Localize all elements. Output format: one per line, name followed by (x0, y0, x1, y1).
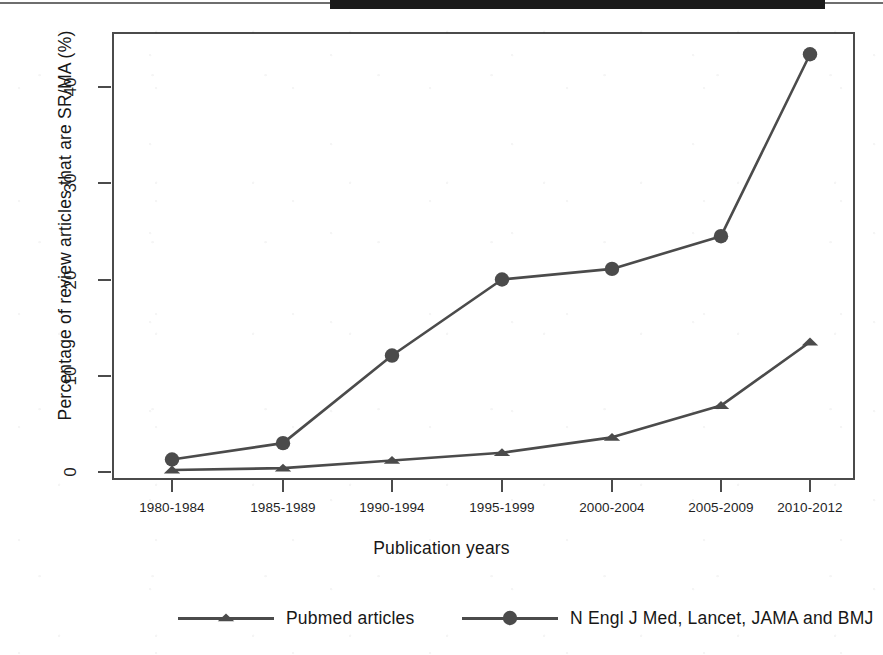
y-tick-mark (98, 279, 111, 281)
circle-marker (500, 608, 520, 628)
legend-sample (462, 608, 558, 628)
legend-sample (178, 608, 274, 628)
plot-area (112, 32, 855, 480)
legend-entry: N Engl J Med, Lancet, JAMA and BMJ (462, 604, 873, 632)
chart-legend: Pubmed articlesN Engl J Med, Lancet, JAM… (0, 600, 883, 640)
legend-label: Pubmed articles (286, 608, 414, 629)
y-tick-label: 10 (52, 367, 90, 385)
y-tick-label: 30 (52, 174, 90, 192)
x-tick-mark (501, 480, 503, 492)
x-tick-label: 1990-1994 (332, 500, 452, 515)
x-tick-mark (809, 480, 811, 492)
y-tick-label: 0 (52, 463, 90, 481)
x-axis-title: Publication years (0, 538, 883, 559)
chart-figure: Percentage of review articles that are S… (0, 0, 883, 655)
x-tick-mark (391, 480, 393, 492)
legend-entry: Pubmed articles (178, 604, 414, 632)
x-tick-mark (171, 480, 173, 492)
x-tick-mark (611, 480, 613, 492)
legend-label: N Engl J Med, Lancet, JAMA and BMJ (570, 608, 873, 629)
y-tick-label: 20 (52, 271, 90, 289)
y-tick-mark (98, 182, 111, 184)
x-tick-label: 2010-2012 (750, 500, 870, 515)
x-tick-label: 2000-2004 (552, 500, 672, 515)
x-tick-label: 1985-1989 (223, 500, 343, 515)
x-tick-mark (282, 480, 284, 492)
y-tick-mark (98, 471, 111, 473)
y-tick-mark (98, 86, 111, 88)
x-tick-mark (720, 480, 722, 492)
y-tick-mark (98, 375, 111, 377)
triangle-marker (216, 608, 236, 628)
y-tick-label: 40 (52, 78, 90, 96)
x-tick-label: 1980-1984 (112, 500, 232, 515)
x-tick-label: 1995-1999 (442, 500, 562, 515)
